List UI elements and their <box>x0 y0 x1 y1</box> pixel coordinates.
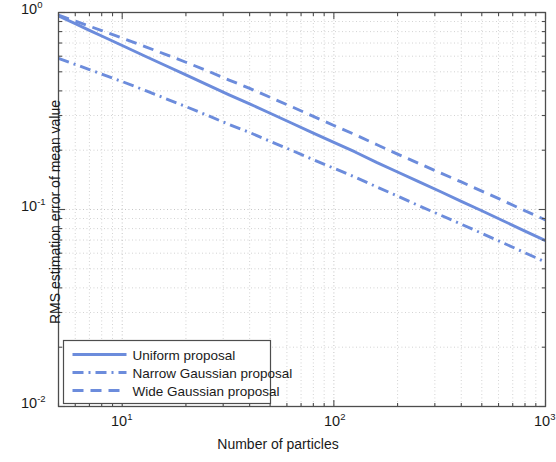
legend-label-1: Narrow Gaussian proposal <box>133 366 293 381</box>
x-tick-label-10: 101 <box>111 413 132 429</box>
legend-label-2: Wide Gaussian proposal <box>133 384 280 399</box>
figure-canvas: Uniform proposalNarrow Gaussian proposal… <box>0 0 556 462</box>
data-series-layer <box>59 15 546 262</box>
x-tick-label-1000: 103 <box>534 413 555 429</box>
y-tick-label-1: 100 <box>21 1 42 17</box>
legend-box: Uniform proposalNarrow Gaussian proposal… <box>64 341 293 404</box>
log-log-chart: Uniform proposalNarrow Gaussian proposal… <box>0 0 556 462</box>
series-line-0 <box>59 16 546 241</box>
x-axis-title: Number of particles <box>0 436 556 452</box>
y-axis-title: RMS estimation error of mean value <box>47 100 63 324</box>
x-tick-label-100: 102 <box>324 413 345 429</box>
series-line-1 <box>59 58 546 262</box>
y-axis-title-wrapper: RMS estimation error of mean value <box>46 2 66 422</box>
legend-label-0: Uniform proposal <box>133 348 236 363</box>
y-tick-label-0p01: 10-2 <box>21 395 46 411</box>
y-tick-label-0p1: 10-1 <box>21 198 46 214</box>
series-line-2 <box>59 15 546 220</box>
